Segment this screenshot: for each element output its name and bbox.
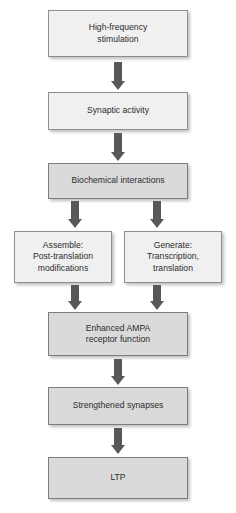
arrow-shaft bbox=[114, 133, 122, 153]
arrow-shaft bbox=[153, 285, 161, 302]
node-label: LTP bbox=[106, 472, 129, 483]
arrow-shaft bbox=[71, 201, 79, 220]
node-label: Generate: Transcription, translation bbox=[143, 240, 203, 274]
arrow-head bbox=[111, 445, 125, 454]
arrow-head bbox=[111, 81, 125, 90]
arrow-head bbox=[111, 152, 125, 161]
node-label: High-frequency stimulation bbox=[85, 22, 152, 44]
node-label: Strengthened synapses bbox=[69, 400, 168, 411]
node-label: Biochemical interactions bbox=[67, 175, 168, 186]
arrow-shaft bbox=[71, 285, 79, 302]
node-strengthened-synapses: Strengthened synapses bbox=[48, 387, 188, 425]
node-ltp: LTP bbox=[48, 457, 188, 499]
arrow-shaft bbox=[114, 428, 122, 446]
arrow-head bbox=[150, 219, 164, 228]
node-label: Enhanced AMPA receptor function bbox=[82, 323, 155, 345]
arrow-head bbox=[68, 301, 82, 310]
node-enhanced-ampa-receptor-function: Enhanced AMPA receptor function bbox=[48, 312, 188, 356]
node-label: Assemble: Post-translation modifications bbox=[29, 240, 97, 274]
arrow-shaft bbox=[114, 62, 122, 82]
node-biochemical-interactions: Biochemical interactions bbox=[48, 163, 188, 199]
node-high-frequency-stimulation: High-frequency stimulation bbox=[48, 10, 188, 57]
node-generate-transcription-translation: Generate: Transcription, translation bbox=[124, 231, 222, 283]
flowchart-canvas: High-frequency stimulation Synaptic acti… bbox=[0, 0, 236, 513]
arrow-head bbox=[68, 219, 82, 228]
arrow-shaft bbox=[153, 201, 161, 220]
arrow-head bbox=[111, 376, 125, 385]
node-synaptic-activity: Synaptic activity bbox=[48, 92, 188, 130]
node-assemble-post-translation-modifications: Assemble: Post-translation modifications bbox=[14, 231, 112, 283]
node-label: Synaptic activity bbox=[83, 105, 153, 116]
arrow-shaft bbox=[114, 359, 122, 377]
arrow-head bbox=[150, 301, 164, 310]
